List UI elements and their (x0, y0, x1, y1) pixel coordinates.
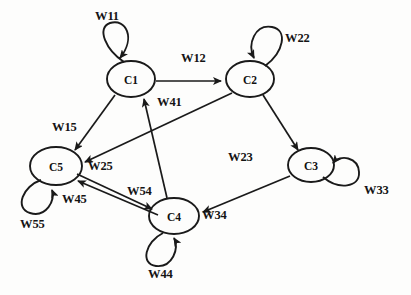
node-c1[interactable]: C1 (107, 61, 155, 97)
loop-w33 (323, 158, 359, 186)
edge-label-w25: W25 (88, 159, 113, 174)
node-c2-label: C2 (243, 74, 257, 86)
edge-label-w12: W12 (181, 51, 206, 66)
edge-label-w33: W33 (364, 183, 389, 198)
edge-label-w11: W11 (95, 9, 119, 24)
loop-w11 (103, 22, 128, 62)
edge-label-w23: W23 (228, 150, 253, 165)
node-c2[interactable]: C2 (226, 61, 274, 97)
diagram-canvas: C1 C2 C3 C4 C5 W11 W22 W33 W44 W55 W12 W… (0, 0, 411, 295)
edge-label-w45: W45 (62, 192, 87, 207)
edge-label-w22: W22 (285, 31, 310, 46)
node-c4-label: C4 (167, 211, 181, 223)
edge-label-w41: W41 (157, 95, 182, 110)
edge-w15 (75, 95, 115, 150)
loop-w44 (146, 233, 176, 266)
edge-label-w54: W54 (127, 184, 152, 199)
node-c5-label: C5 (49, 161, 63, 173)
edge-label-w34: W34 (202, 208, 227, 223)
node-c5[interactable]: C5 (30, 147, 82, 185)
loop-w22 (251, 27, 281, 66)
edge-w23 (263, 95, 298, 150)
edge-w34 (203, 176, 290, 212)
node-c3-label: C3 (304, 160, 318, 172)
edge-label-w55: W55 (20, 217, 45, 232)
edge-label-w15: W15 (52, 120, 77, 135)
graph-svg: C1 C2 C3 C4 C5 (0, 0, 411, 295)
node-c4[interactable]: C4 (149, 198, 199, 234)
node-c1-label: C1 (124, 74, 138, 86)
edge-label-w44: W44 (148, 267, 173, 282)
node-c3[interactable]: C3 (288, 148, 334, 182)
